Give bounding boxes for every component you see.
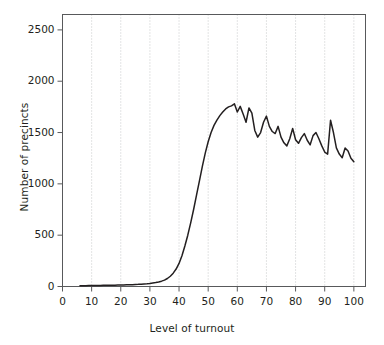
x-tick-marks (63, 287, 354, 292)
chart-figure: Number of precincts Level of turnout 050… (0, 0, 384, 345)
plot-area (0, 0, 384, 345)
plot-frame (63, 15, 366, 287)
gridlines (63, 15, 354, 287)
y-tick-marks (58, 30, 63, 287)
